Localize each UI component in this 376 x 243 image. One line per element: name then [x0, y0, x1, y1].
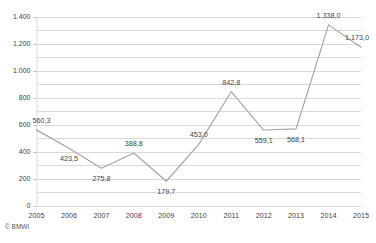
x-axis-tick-label: 2014	[312, 211, 346, 220]
data-point-label: 559,1	[246, 136, 282, 145]
x-axis-tick-label: 2012	[247, 211, 281, 220]
y-axis-tick-label: 800	[0, 94, 31, 102]
x-axis-tick-label: 2011	[214, 211, 248, 220]
data-point-label: 275,8	[83, 174, 119, 183]
data-point-label: 1.173,0	[339, 33, 375, 42]
x-axis-tick-label: 2010	[182, 211, 216, 220]
y-axis-tick-label: 1.200	[0, 40, 31, 48]
x-axis-tick-label: 2007	[84, 211, 118, 220]
data-point-label: 1.338,0	[311, 11, 347, 20]
x-axis-tick-label: 2005	[20, 211, 54, 220]
line-chart: 02004006008001.0001.2001.400 20052006200…	[0, 0, 376, 243]
data-point-label: 423,5	[51, 154, 87, 163]
data-point-label: 560,3	[24, 116, 60, 125]
x-axis-tick-label: 2015	[344, 211, 376, 220]
x-axis-tick-label: 2009	[149, 211, 183, 220]
data-point-label: 453,0	[181, 130, 217, 139]
x-axis-tick-label: 2013	[279, 211, 313, 220]
data-point-label: 568,1	[278, 135, 314, 144]
y-axis-tick-label: 200	[0, 175, 31, 183]
data-point-label: 179,7	[148, 187, 184, 196]
y-axis-tick-label: 400	[0, 148, 31, 156]
y-axis-tick-label: 1.400	[0, 13, 31, 21]
data-point-label: 842,8	[213, 78, 249, 87]
x-axis-tick-label: 2008	[117, 211, 151, 220]
y-axis-tick-label: 1.000	[0, 67, 31, 75]
credit-attribution: © BMWi	[5, 223, 29, 231]
y-axis-ticks	[34, 18, 37, 207]
y-axis-tick-label: 0	[0, 202, 31, 210]
data-point-label: 388,8	[116, 139, 152, 148]
x-axis-tick-label: 2006	[52, 211, 86, 220]
